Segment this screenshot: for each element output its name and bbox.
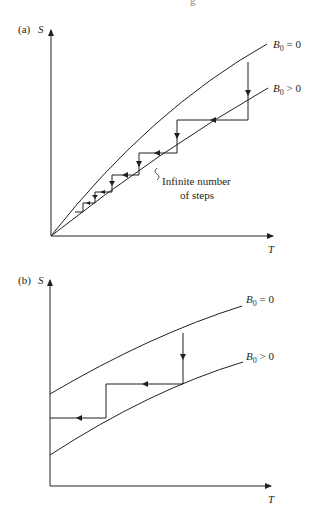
panel-b-label: (b) [18, 274, 31, 287]
panel-b-staircase [50, 333, 183, 418]
annotation-infinite-steps-line2: of steps [180, 189, 214, 201]
panel-a: (a) S T B0 = 0 B0 > 0 Infinite num [18, 23, 301, 255]
panel-a-step-arrows [86, 90, 251, 205]
panel-a-lower-curve-label: B0 > 0 [273, 82, 301, 97]
panel-a-y-axis-label: S [38, 23, 44, 35]
panel-b-step-arrows [76, 354, 186, 421]
panel-a-label: (a) [18, 23, 31, 36]
panel-a-upper-curve-label: B0 = 0 [273, 38, 301, 53]
annotation-infinite-steps-line1: Infinite number [162, 175, 231, 187]
panel-a-staircase [75, 62, 248, 212]
panel-b-y-axis-label: S [38, 274, 44, 286]
diagram-canvas: (a) S T B0 = 0 B0 > 0 Infinite num [0, 0, 316, 521]
panel-a-x-axis-label: T [268, 243, 275, 255]
panel-b-lower-curve-label: B0 > 0 [246, 350, 274, 365]
annotation-leader [155, 168, 159, 180]
panel-b-upper-curve-label: B0 = 0 [246, 293, 274, 308]
panel-b-curve-b0-positive [50, 362, 243, 455]
panel-b-curve-b0-zero [50, 306, 242, 394]
panel-a-curve-b0-positive [51, 88, 268, 236]
panel-b-x-axis-label: T [268, 493, 275, 505]
panel-b: (b) S T B0 = 0 B0 > 0 [18, 274, 275, 505]
